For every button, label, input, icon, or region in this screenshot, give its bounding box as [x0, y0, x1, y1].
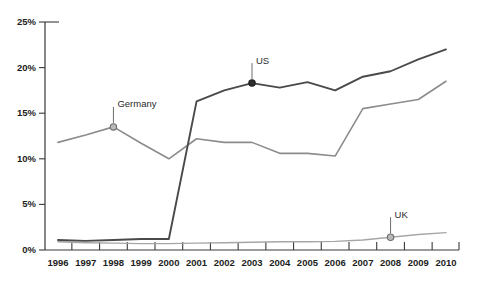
y-tick-label: 0%: [22, 244, 36, 255]
x-tick-label: 2004: [269, 257, 291, 268]
x-tick-label: 2006: [325, 257, 346, 268]
y-tick-label: 10%: [17, 153, 37, 164]
x-tick-label: 2000: [158, 257, 179, 268]
data-point-marker-us: [249, 80, 255, 86]
x-tick-label: 2008: [380, 257, 401, 268]
x-tick-label: 1996: [47, 257, 68, 268]
chart-canvas: 0%5%10%15%20%25% 19961997199819992000200…: [0, 0, 480, 286]
x-tick-label: 1997: [75, 257, 96, 268]
y-tick-label: 25%: [17, 16, 37, 27]
x-tick-label: 2009: [408, 257, 429, 268]
data-point-marker-uk: [387, 234, 393, 240]
x-tick-label: 2010: [435, 257, 456, 268]
x-tick-label: 2005: [297, 257, 319, 268]
y-tick-label: 20%: [17, 62, 37, 73]
x-tick-label: 2001: [186, 257, 208, 268]
line-chart: 0%5%10%15%20%25% 19961997199819992000200…: [0, 0, 480, 286]
x-tick-label: 1999: [131, 257, 152, 268]
x-tick-label: 2003: [241, 257, 262, 268]
series-label-us: US: [256, 55, 269, 66]
series-label-uk: UK: [395, 209, 409, 220]
data-point-marker-germany: [110, 124, 116, 130]
x-tick-label: 2007: [352, 257, 373, 268]
y-tick-label: 5%: [22, 198, 36, 209]
y-tick-label: 15%: [17, 107, 37, 118]
x-tick-label: 2002: [214, 257, 235, 268]
x-tick-label: 1998: [103, 257, 124, 268]
series-label-germany: Germany: [117, 98, 156, 109]
